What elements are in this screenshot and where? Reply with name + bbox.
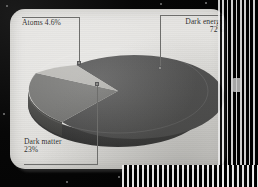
screenshot-stage: Atoms 4.6% Dark energy 72% Dark matter 2… bbox=[0, 0, 258, 187]
marker-atoms bbox=[77, 61, 81, 65]
background-speck bbox=[118, 176, 120, 178]
edge-stripe-artifact-right bbox=[218, 0, 258, 187]
background-speck bbox=[3, 113, 5, 115]
leader-line-atoms-vertical bbox=[79, 17, 80, 63]
background-speck bbox=[6, 5, 8, 7]
edge-stripe-artifact-bottom bbox=[122, 165, 258, 187]
label-dark-energy: Dark energy 72% bbox=[166, 18, 224, 34]
label-dark-matter: Dark matter 23% bbox=[24, 138, 62, 154]
label-dark-energy-value: 72% bbox=[166, 26, 224, 34]
leader-line-dark-matter-horizontal bbox=[24, 164, 98, 165]
edge-artifact-blotch bbox=[233, 78, 242, 92]
leader-line-dark-energy-horizontal bbox=[160, 15, 224, 16]
label-dark-matter-value: 23% bbox=[24, 146, 62, 154]
marker-dark-energy bbox=[158, 66, 162, 70]
leader-line-dark-matter-vertical bbox=[97, 86, 98, 165]
background-speck bbox=[66, 181, 68, 183]
label-atoms: Atoms 4.6% bbox=[22, 19, 61, 27]
label-atoms-text: Atoms 4.6% bbox=[22, 19, 61, 27]
leader-line-dark-energy-vertical bbox=[160, 15, 161, 68]
marker-dark-matter bbox=[95, 82, 99, 86]
background-speck bbox=[205, 2, 207, 4]
